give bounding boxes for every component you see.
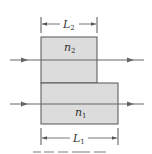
ray-arrow-icon — [127, 102, 134, 107]
refraction-diagram: L2 n2 n1 L1 — [0, 0, 152, 154]
dimension-l2: L2 — [41, 17, 97, 33]
label-l2: L2 — [62, 18, 75, 32]
dimension-l1: L1 — [41, 128, 118, 146]
arrowhead-left-icon — [42, 22, 47, 25]
caption-fragment — [33, 151, 106, 153]
ray-arrow-icon — [21, 102, 28, 107]
ray-arrow-icon — [127, 58, 134, 63]
arrowhead-right-icon — [112, 136, 117, 139]
ray-arrow-icon — [21, 58, 28, 63]
arrowhead-left-icon — [42, 136, 47, 139]
label-l1: L1 — [72, 132, 85, 146]
arrowhead-right-icon — [91, 22, 96, 25]
